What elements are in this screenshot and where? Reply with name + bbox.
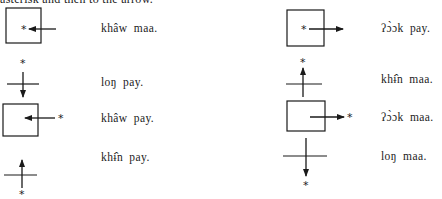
asterisk-icon: *: [347, 111, 353, 124]
label-L4: khɨ̂n pay.: [101, 151, 150, 163]
label-R4: loŋ maa.: [381, 150, 427, 162]
asterisk-icon: *: [301, 23, 307, 36]
figure-cross-arrow-up-R2: *: [286, 56, 322, 97]
figure-box-arrow-out-R1: *: [287, 10, 343, 46]
box-icon: [287, 101, 325, 131]
label-R2: khɨ̂n maa.: [381, 73, 433, 85]
asterisk-icon: *: [58, 112, 64, 125]
asterisk-icon: *: [19, 188, 25, 199]
asterisk-icon: *: [21, 23, 27, 36]
figure-box-arrow-in-L1: *: [6, 8, 56, 43]
figure-cross-arrow-up-L4: *: [4, 160, 37, 199]
label-L1: khâw maa.: [101, 22, 157, 34]
figure-cross-arrow-down-R4: *: [283, 138, 327, 192]
asterisk-icon: *: [303, 179, 309, 192]
asterisk-icon: *: [20, 57, 26, 70]
label-L2: loŋ pay.: [101, 76, 143, 88]
label-R3: ʔɔ̀ɔk maa.: [381, 111, 434, 123]
label-L3: khâw pay.: [101, 112, 154, 124]
figure-cross-arrow-down-L2: *: [7, 57, 39, 97]
label-R1: ʔɔ̀ɔk pay.: [381, 22, 430, 34]
figures-canvas: * * * * * * * *: [0, 0, 442, 199]
asterisk-icon: *: [300, 56, 306, 69]
figure-box-arrow-in-L3: *: [3, 104, 64, 136]
figure-box-arrow-out-R3: *: [287, 101, 353, 131]
box-icon: [3, 104, 38, 136]
